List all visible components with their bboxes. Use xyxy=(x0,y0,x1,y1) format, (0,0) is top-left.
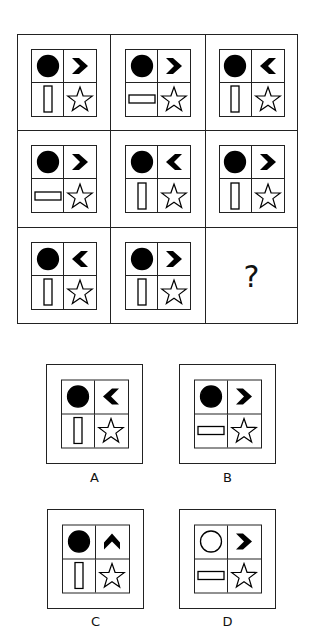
chevron-right-icon xyxy=(163,55,185,77)
symbol-tile xyxy=(194,380,262,449)
option-a-label: A xyxy=(46,470,143,485)
quadrant-top-left xyxy=(195,526,228,560)
chevron-right-icon xyxy=(257,151,279,173)
quadrant-top-right xyxy=(64,50,96,83)
quadrant-bottom-left xyxy=(126,179,158,212)
symbol-tile xyxy=(31,145,97,213)
star-outline-icon xyxy=(230,417,258,445)
quadrant-bottom-left xyxy=(126,83,158,116)
vertical-rectangle-icon xyxy=(136,278,148,306)
quadrant-top-right xyxy=(95,381,128,415)
quadrant-bottom-right xyxy=(228,559,261,593)
matrix-cell-2-2 xyxy=(111,131,206,228)
quadrant-top-right xyxy=(252,50,284,83)
chevron-right-icon xyxy=(69,151,91,173)
outline-circle-icon xyxy=(199,530,223,554)
vertical-rectangle-icon xyxy=(72,417,84,445)
horizontal-rectangle-icon xyxy=(34,190,62,202)
chevron-up-icon xyxy=(101,531,123,553)
missing-cell: ? xyxy=(206,228,297,323)
symbol-tile xyxy=(219,49,285,117)
vertical-rectangle-icon xyxy=(42,278,54,306)
vertical-rectangle-icon xyxy=(229,85,241,113)
quadrant-top-left xyxy=(32,146,64,179)
quadrant-bottom-left xyxy=(195,414,228,448)
quadrant-bottom-left xyxy=(220,83,252,116)
vertical-rectangle-icon xyxy=(136,182,148,210)
option-b-label: B xyxy=(179,470,276,485)
symbol-tile xyxy=(219,145,285,213)
quadrant-bottom-right xyxy=(64,83,96,116)
star-outline-icon xyxy=(160,85,188,113)
option-d-label: D xyxy=(179,614,276,629)
quadrant-top-right xyxy=(64,243,96,276)
quadrant-bottom-left xyxy=(32,83,64,116)
star-outline-icon xyxy=(230,562,258,590)
matrix-cell-1-1 xyxy=(18,35,111,131)
quadrant-bottom-right xyxy=(64,179,96,212)
quadrant-bottom-right xyxy=(252,179,284,212)
quadrant-bottom-left xyxy=(62,414,95,448)
quadrant-top-left xyxy=(195,381,228,415)
quadrant-bottom-left xyxy=(220,179,252,212)
quadrant-top-left xyxy=(220,146,252,179)
quadrant-top-right xyxy=(64,146,96,179)
filled-circle-icon xyxy=(130,247,154,271)
quadrant-top-right xyxy=(252,146,284,179)
puzzle-grid: ? xyxy=(17,34,298,324)
chevron-right-icon xyxy=(163,248,185,270)
star-outline-icon xyxy=(254,85,282,113)
quadrant-bottom-left xyxy=(32,276,64,309)
filled-circle-icon xyxy=(223,54,247,78)
quadrant-bottom-left xyxy=(126,276,158,309)
quadrant-top-left xyxy=(126,146,158,179)
quadrant-bottom-left xyxy=(63,559,96,593)
option-a[interactable] xyxy=(46,364,143,464)
chevron-right-icon xyxy=(233,531,255,553)
filled-circle-icon xyxy=(66,385,90,409)
quadrant-bottom-right xyxy=(228,414,261,448)
star-outline-icon xyxy=(66,85,94,113)
quadrant-bottom-right xyxy=(95,414,128,448)
symbol-tile xyxy=(125,242,191,310)
quadrant-bottom-right xyxy=(96,559,129,593)
chevron-left-icon xyxy=(163,151,185,173)
symbol-tile xyxy=(194,525,262,594)
horizontal-rectangle-icon xyxy=(197,570,225,582)
quadrant-top-left xyxy=(63,526,96,560)
filled-circle-icon xyxy=(130,150,154,174)
option-b[interactable] xyxy=(179,364,276,464)
star-outline-icon xyxy=(160,278,188,306)
quadrant-top-left xyxy=(62,381,95,415)
option-d[interactable] xyxy=(179,509,276,609)
filled-circle-icon xyxy=(130,54,154,78)
quadrant-top-right xyxy=(158,243,190,276)
star-outline-icon xyxy=(98,562,126,590)
chevron-left-icon xyxy=(69,248,91,270)
quadrant-top-left xyxy=(32,243,64,276)
star-outline-icon xyxy=(254,182,282,210)
option-c[interactable] xyxy=(47,509,144,609)
star-outline-icon xyxy=(66,278,94,306)
symbol-tile xyxy=(62,525,130,594)
chevron-left-icon xyxy=(100,386,122,408)
vertical-rectangle-icon xyxy=(42,85,54,113)
quadrant-top-left xyxy=(220,50,252,83)
filled-circle-icon xyxy=(199,385,223,409)
star-outline-icon xyxy=(160,182,188,210)
filled-circle-icon xyxy=(36,150,60,174)
symbol-tile xyxy=(31,49,97,117)
chevron-left-icon xyxy=(257,55,279,77)
option-c-label: C xyxy=(47,614,144,629)
filled-circle-icon xyxy=(36,54,60,78)
filled-circle-icon xyxy=(223,150,247,174)
symbol-tile xyxy=(125,49,191,117)
quadrant-bottom-right xyxy=(252,83,284,116)
matrix-cell-1-2 xyxy=(111,35,206,131)
vertical-rectangle-icon xyxy=(229,182,241,210)
vertical-rectangle-icon xyxy=(73,562,85,590)
horizontal-rectangle-icon xyxy=(128,93,156,105)
symbol-tile xyxy=(31,242,97,310)
quadrant-bottom-right xyxy=(64,276,96,309)
chevron-right-icon xyxy=(233,386,255,408)
